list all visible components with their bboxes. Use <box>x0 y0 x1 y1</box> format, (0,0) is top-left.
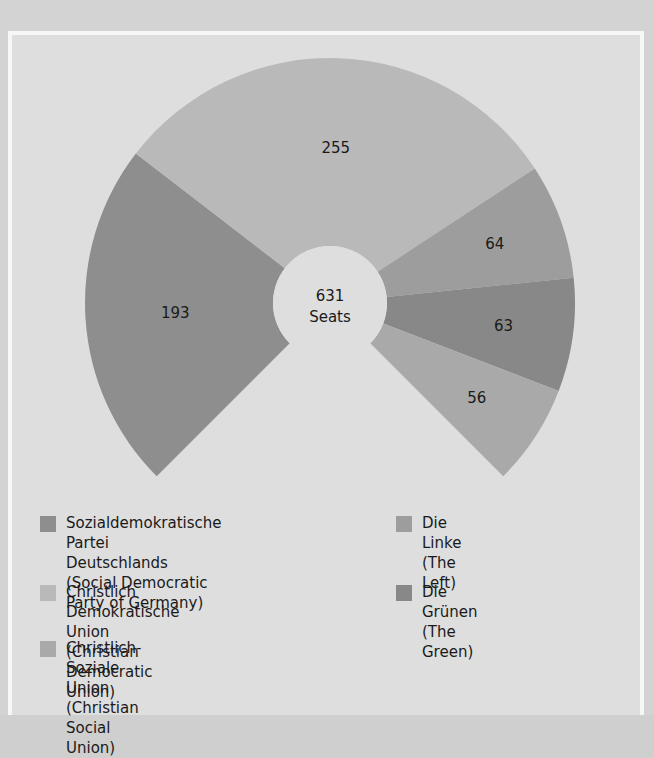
slice-value-label-spd: 193 <box>161 304 190 322</box>
legend-swatch-icon <box>40 585 56 601</box>
legend-swatch-icon <box>40 641 56 657</box>
legend-item-linke: Die Linke (The Left) <box>396 513 461 593</box>
legend-swatch-icon <box>40 516 56 532</box>
slice-value-label-cdu: 255 <box>321 139 350 157</box>
legend-label: Die Linke (The Left) <box>422 513 461 593</box>
legend-item-gruene: Die Grünen (The Green) <box>396 582 478 662</box>
legend-item-csu: Christlich-Soziale Union (Christian Soci… <box>40 638 142 758</box>
legend-label: Die Grünen (The Green) <box>422 582 478 662</box>
slice-value-label-gruene: 63 <box>494 317 513 335</box>
center-total-label: 631 <box>316 287 345 305</box>
slice-value-label-linke: 64 <box>485 235 504 253</box>
legend-label: Christlich-Soziale Union (Christian Soci… <box>66 638 142 758</box>
center-unit-label: Seats <box>309 308 351 326</box>
legend-swatch-icon <box>396 516 412 532</box>
slice-value-label-csu: 56 <box>467 389 486 407</box>
legend-swatch-icon <box>396 585 412 601</box>
